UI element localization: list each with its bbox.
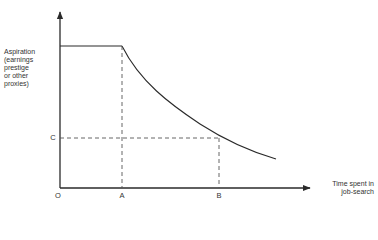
- y-label-line: prestige: [4, 64, 60, 72]
- marker-c-label: C: [50, 133, 55, 142]
- marker-a-label: A: [119, 191, 124, 200]
- x-axis-label: Time spent in job-search: [312, 180, 374, 196]
- y-axis-label: Aspiration (earnings prestige or other p…: [4, 48, 60, 88]
- y-label-line: proxies): [4, 80, 60, 88]
- aspiration-curve: [122, 46, 276, 159]
- y-label-line: or other: [4, 72, 60, 80]
- y-label-line: Aspiration: [4, 48, 60, 56]
- origin-label: O: [55, 191, 61, 200]
- marker-b-label: B: [216, 191, 221, 200]
- x-label-line: Time spent in: [312, 180, 374, 188]
- y-label-line: (earnings: [4, 56, 60, 64]
- x-label-line: job-search: [312, 188, 374, 196]
